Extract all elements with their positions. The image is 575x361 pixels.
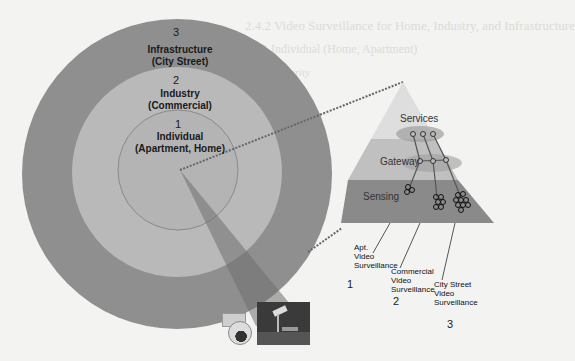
layer-label-gateway: Gateway <box>380 156 419 167</box>
ring-2-number: 2 <box>173 74 179 86</box>
layer-label-sensing: Sensing <box>363 191 399 202</box>
ring-1-label: Individual (Apartment, Home) <box>120 131 240 155</box>
caption-line: Surveillance <box>434 298 478 307</box>
caption-apt-video-surveillance: Apt. Video Surveillance <box>354 243 398 270</box>
ring-1-subtitle: (Apartment, Home) <box>120 143 240 155</box>
ring-2-title: Industry <box>125 88 235 100</box>
caption-3-number: 3 <box>447 318 453 330</box>
ring-3-subtitle: (City Street) <box>125 56 235 68</box>
caption-line: Video <box>391 276 435 285</box>
ring-2-label: Industry (Commercial) <box>125 88 235 112</box>
caption-line: Surveillance <box>391 285 435 294</box>
caption-commercial-video-surveillance: Commercial Video Surveillance <box>391 267 435 294</box>
ring-3-number: 3 <box>173 26 179 38</box>
ring-3-title: Infrastructure <box>125 44 235 56</box>
caption-line: Video <box>354 252 398 261</box>
ring-2-subtitle: (Commercial) <box>125 100 235 112</box>
ring-1-number: 1 <box>175 118 181 130</box>
street-camera-photo <box>257 302 310 345</box>
caption-1-number: 1 <box>347 278 353 290</box>
layer-label-services: Services <box>400 113 438 124</box>
caption-line: Commercial <box>391 267 435 276</box>
caption-line: Apt. <box>354 243 398 252</box>
ring-3-label: Infrastructure (City Street) <box>125 44 235 68</box>
dome-camera-image <box>222 313 252 347</box>
caption-city-street-video-surveillance: City Street Video Surveillance <box>434 280 478 307</box>
ring-1-title: Individual <box>120 131 240 143</box>
caption-line: Video <box>434 289 478 298</box>
caption-2-number: 2 <box>393 295 399 307</box>
caption-line: City Street <box>434 280 478 289</box>
